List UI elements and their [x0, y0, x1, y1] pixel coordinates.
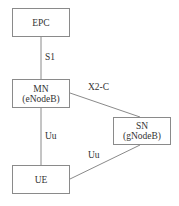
- node-mn-label: MN: [33, 84, 48, 94]
- edge-label-uu-sn: Uu: [88, 150, 100, 160]
- node-ue: UE: [12, 165, 70, 194]
- edge-label-x2c: X2-C: [88, 82, 109, 92]
- node-sn-sublabel: (gNodeB): [123, 131, 161, 141]
- edge-mn-sn: [70, 93, 140, 117]
- node-epc: EPC: [12, 8, 70, 37]
- node-sn-label: SN: [136, 121, 148, 131]
- node-mn-sublabel: (eNodeB): [22, 94, 59, 104]
- edge-label-s1: S1: [45, 52, 55, 62]
- node-ue-label: UE: [35, 175, 48, 185]
- node-sn: SN (gNodeB): [113, 117, 171, 145]
- edge-label-uu-mn: Uu: [45, 131, 57, 141]
- node-mn: MN (eNodeB): [12, 79, 70, 108]
- edge-sn-ue: [70, 145, 140, 179]
- node-epc-label: EPC: [32, 18, 49, 28]
